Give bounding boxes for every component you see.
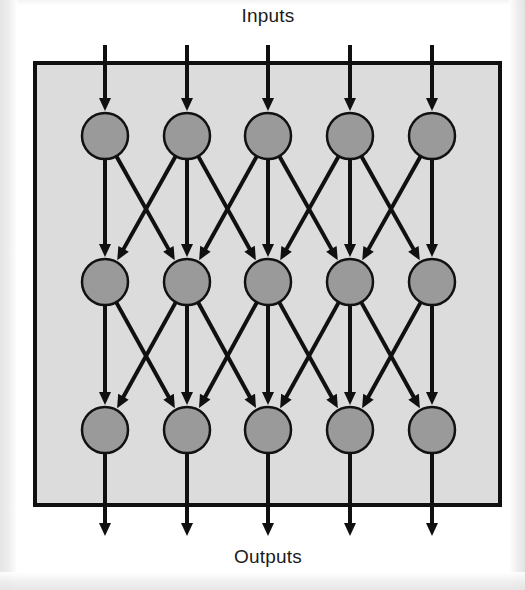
node-n0-0 [82,113,128,159]
node-n0-2 [245,113,291,159]
output-arrow-2-head [262,523,274,536]
node-n0-1 [164,113,210,159]
node-n2-2 [245,407,291,453]
output-arrow-1-head [181,523,193,536]
node-n1-4 [409,259,455,305]
output-arrow-3-head [344,523,356,536]
output-arrow-0-head [99,523,111,536]
node-n1-2 [245,259,291,305]
node-n1-3 [327,259,373,305]
node-n0-4 [409,113,455,159]
inputs-label: Inputs [242,5,295,26]
node-n2-4 [409,407,455,453]
figure-root: Inputs Outputs [0,0,525,590]
outputs-label: Outputs [234,546,302,567]
node-n1-0 [82,259,128,305]
output-arrow-4-head [426,523,438,536]
node-n2-1 [164,407,210,453]
node-n2-0 [82,407,128,453]
node-n1-1 [164,259,210,305]
node-n2-3 [327,407,373,453]
network-diagram: Inputs Outputs [0,0,525,590]
node-n0-3 [327,113,373,159]
